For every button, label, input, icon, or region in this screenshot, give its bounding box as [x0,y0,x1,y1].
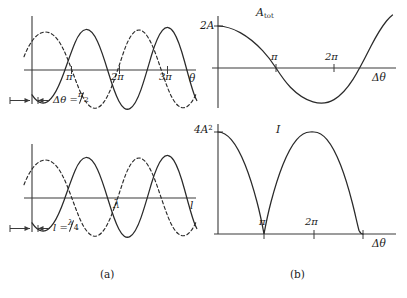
path-offset-fraction: λ4 [68,222,79,232]
panel-b-top: Atot 2A π 2π Δθ [200,0,407,112]
tick-label-pi: π [66,72,73,82]
caption-b: (b) [290,268,305,280]
phase-offset-fraction: π2 [78,94,89,104]
tick-label-2pi: 2π [325,52,338,62]
y-axis-label-4A2: 4A2 [194,124,213,135]
tick-label-pi: π [271,52,278,62]
y-axis-label-exponent: 2 [208,124,212,132]
curve-label-A-tot: Atot [256,7,274,19]
panel-a-bottom-plot [0,128,200,253]
tick-label-2pi: 2π [305,217,318,227]
tick-label-3pi: 3π [159,72,172,82]
figure-root: | --> π 2π 3π θ Δθ =π2 λ l [0,0,407,298]
curve-label-intensity: I [276,124,280,135]
y-axis-label-2A: 2A [200,20,214,31]
phase-offset-denominator: 2 [84,96,89,104]
caption-a: (a) [100,268,114,280]
panel-a-bottom: λ l l =λ4 [0,128,200,253]
panel-a-top-plot: | --> [0,0,200,118]
x-axis-label-delta-theta: Δθ [372,72,386,83]
panel-a-top: | --> π 2π 3π θ Δθ =π2 [0,0,200,118]
path-offset-prefix: l = [53,222,68,233]
phase-offset-prefix: Δθ = [53,94,78,105]
y-axis-label-main: 4A [194,123,208,135]
tick-label-2pi: 2π [111,72,124,82]
path-offset-annotation: l =λ4 [53,222,78,233]
curve-label-subscript: tot [264,12,274,20]
x-axis-label-l: l [190,200,193,211]
origin-arrow-head [25,98,31,103]
origin-arrow-head [25,226,31,231]
tick-label-pi: π [259,217,266,227]
x-axis-label-delta-theta: Δθ [372,238,386,249]
curve-intensity [218,132,363,234]
panel-b-top-plot [200,0,407,112]
curve-label-A: A [256,6,264,19]
panel-b-bottom: I 4A2 π 2π Δθ [200,112,407,260]
phase-offset-annotation: Δθ =π2 [53,94,88,105]
path-offset-denominator: 4 [74,224,79,232]
curve-A-tot [218,15,393,103]
x-axis-label-theta: θ [189,73,195,84]
wavelength-label: λ [113,199,120,210]
wave-dashed [24,30,197,108]
wave-dashed [24,158,197,236]
